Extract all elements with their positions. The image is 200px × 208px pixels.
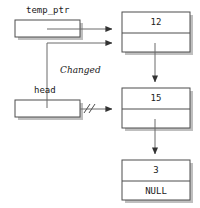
diagram-vector-layer: [0, 0, 200, 208]
arrow-head-changed-to-node-1: [47, 43, 112, 108]
node-3-next: NULL: [122, 187, 190, 196]
changed-annotation: Changed: [60, 66, 101, 75]
linked-list-diagram: temp_ptr head Changed 12 15 3 NULL: [0, 0, 200, 208]
node-2-value: 15: [122, 94, 190, 103]
node-3-value: 3: [122, 166, 190, 175]
node-1-value: 12: [122, 18, 190, 27]
head-label: head: [34, 86, 56, 95]
temp-ptr-label: temp_ptr: [26, 6, 69, 15]
